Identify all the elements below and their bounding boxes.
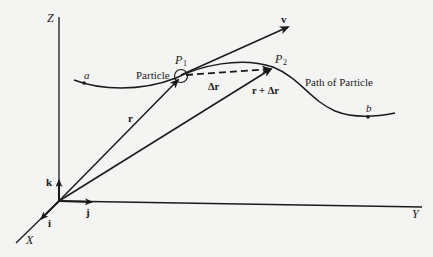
r-vector: [59, 80, 178, 201]
y-axis-label: Y: [412, 207, 420, 221]
y-axis: [59, 201, 422, 207]
r-plus-dr-label: r + Δr: [252, 85, 279, 96]
unit-vectors: k j i: [41, 176, 92, 229]
p1-subscript: 1: [183, 59, 187, 68]
point-b-marker: [366, 115, 370, 119]
point-b-label: b: [366, 102, 372, 114]
p2-label: P 2: [274, 52, 287, 67]
r-plus-dr-vector: [59, 69, 271, 201]
point-a-marker: [82, 81, 86, 85]
particle-label: Particle: [136, 69, 170, 81]
z-axis-label: Z: [47, 11, 54, 25]
particle-motion-diagram: Z Y X k j i a b r r + Δr Δr v Particle P…: [0, 0, 433, 257]
point-a-label: a: [84, 69, 90, 81]
delta-r-vector: [186, 69, 270, 75]
p2-subscript: 2: [283, 58, 287, 67]
path-of-particle-label: Path of Particle: [305, 76, 373, 88]
r-label: r: [128, 112, 133, 124]
axes: Z Y X: [16, 11, 422, 247]
p1-label: P 1: [174, 53, 187, 68]
x-axis-label: X: [25, 233, 34, 247]
v-label: v: [281, 13, 287, 25]
delta-r-label: Δr: [208, 81, 220, 92]
i-label: i: [48, 217, 51, 229]
k-label: k: [46, 176, 53, 188]
v-vector: [181, 27, 288, 75]
j-unit-vector: [59, 201, 92, 202]
p1-letter: P: [174, 53, 183, 67]
j-label: j: [85, 206, 90, 218]
particle-path-curve: [74, 62, 395, 116]
p2-letter: P: [274, 52, 283, 66]
